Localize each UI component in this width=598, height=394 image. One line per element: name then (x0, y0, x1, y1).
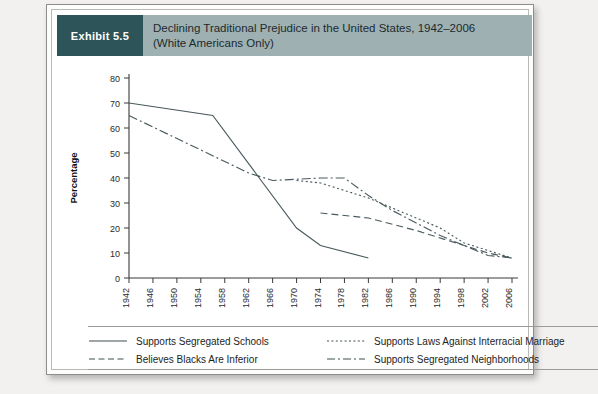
legend-label: Supports Segregated Schools (136, 336, 269, 347)
legend-item: Supports Segregated Neighborhoods (326, 354, 598, 365)
x-tick-label: 1950 (169, 288, 179, 308)
x-tick-label: 1990 (408, 288, 418, 308)
legend-item: Believes Blacks Are Inferior (88, 354, 326, 365)
legend-line-swatch (88, 336, 128, 346)
x-tick-label: 1954 (193, 288, 203, 308)
legend-line-swatch (326, 336, 366, 346)
x-tick-label: 1998 (456, 288, 466, 308)
legend-label: Believes Blacks Are Inferior (136, 354, 258, 365)
x-tick-label: 1966 (265, 288, 275, 308)
x-tick-label: 2002 (480, 288, 490, 308)
exhibit-badge: Exhibit 5.5 (57, 15, 143, 56)
exhibit-title: Declining Traditional Prejudice in the U… (143, 15, 532, 56)
chart-plot-area: 01020304050607080Percentage1942194619501… (57, 60, 532, 315)
exhibit-title-line2: (White Americans Only) (153, 36, 532, 51)
x-tick-label: 1986 (384, 288, 394, 308)
legend-label: Supports Laws Against Interracial Marria… (374, 336, 565, 347)
y-axis-title: Percentage (68, 152, 79, 203)
series-line (321, 213, 513, 258)
x-tick-label: 1982 (360, 288, 370, 308)
y-tick-label: 30 (110, 199, 120, 209)
legend-line-swatch (326, 354, 366, 364)
chart-legend: Supports Segregated SchoolsSupports Laws… (88, 326, 598, 370)
exhibit-card-inner: Exhibit 5.5 Declining Traditional Prejud… (51, 9, 529, 370)
legend-label: Supports Segregated Neighborhoods (374, 354, 539, 365)
x-tick-label: 1978 (336, 288, 346, 308)
y-tick-label: 40 (110, 174, 120, 184)
x-tick-label: 1942 (121, 288, 131, 308)
y-tick-label: 50 (110, 149, 120, 159)
x-tick-label: 1946 (145, 288, 155, 308)
y-tick-label: 10 (110, 249, 120, 259)
series-line (297, 181, 512, 259)
x-tick-label: 1970 (289, 288, 299, 308)
legend-item: Supports Segregated Schools (88, 336, 326, 347)
x-tick-label: 2006 (504, 288, 514, 308)
line-chart: 01020304050607080Percentage1942194619501… (57, 60, 532, 315)
series-line (129, 116, 512, 259)
exhibit-header: Exhibit 5.5 Declining Traditional Prejud… (57, 15, 532, 56)
exhibit-card: Exhibit 5.5 Declining Traditional Prejud… (46, 4, 534, 375)
exhibit-title-line1: Declining Traditional Prejudice in the U… (153, 21, 532, 36)
x-tick-label: 1994 (432, 288, 442, 308)
x-tick-label: 1958 (217, 288, 227, 308)
y-tick-label: 70 (110, 99, 120, 109)
x-tick-label: 1974 (313, 288, 323, 308)
series-line (129, 103, 368, 258)
legend-item: Supports Laws Against Interracial Marria… (326, 336, 598, 347)
x-tick-label: 1962 (241, 288, 251, 308)
y-tick-label: 0 (115, 274, 120, 284)
y-tick-label: 80 (110, 74, 120, 84)
y-tick-label: 60 (110, 124, 120, 134)
legend-line-swatch (88, 354, 128, 364)
y-tick-label: 20 (110, 224, 120, 234)
